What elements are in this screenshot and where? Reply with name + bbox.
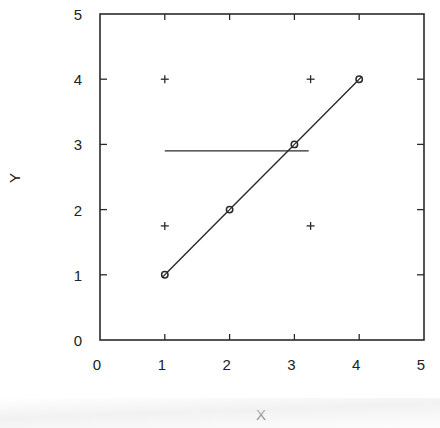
x-tick-label: 0	[93, 356, 101, 373]
y-tick-label: 0	[74, 332, 82, 349]
y-tick-labels: 012345	[74, 6, 82, 349]
scan-artifact	[0, 398, 440, 428]
x-tick-label: 4	[352, 356, 360, 373]
x-tick-label: 3	[287, 356, 295, 373]
y-tick-label: 2	[74, 202, 82, 219]
y-tick-label: 5	[74, 6, 82, 23]
x-tick-label: 5	[417, 356, 425, 373]
connecting-line	[165, 79, 359, 275]
data-series	[161, 75, 363, 278]
x-tick-label: 2	[222, 356, 230, 373]
series-circles-line	[162, 76, 363, 278]
y-tick-label: 3	[74, 136, 82, 153]
y-tick-label: 1	[74, 267, 82, 284]
y-tick-label: 4	[74, 71, 82, 88]
chart: 012345 012345 X Y	[0, 0, 440, 428]
x-tick-label: 1	[158, 356, 166, 373]
x-tick-labels: 012345	[93, 356, 425, 373]
y-axis-label: Y	[6, 173, 23, 183]
series-plus-points	[161, 75, 315, 230]
